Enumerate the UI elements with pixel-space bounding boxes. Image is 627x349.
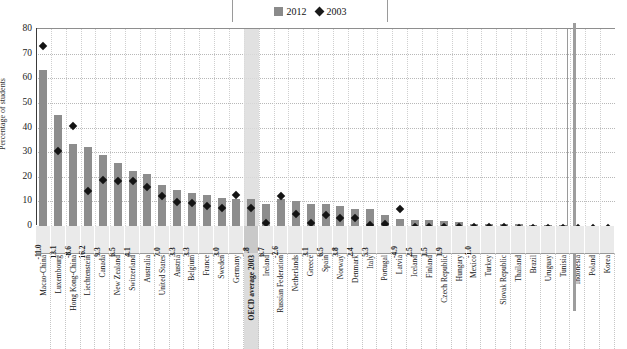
category-label-cell: Germany	[229, 253, 244, 349]
value-cell	[570, 226, 585, 253]
gridline	[36, 201, 615, 202]
y-tick-label: 40	[6, 122, 32, 132]
marker-macao-china	[39, 41, 47, 49]
vertical-gridline	[570, 29, 571, 226]
vertical-gridline	[66, 29, 67, 226]
category-label-cell: Liechtenstein	[81, 253, 96, 349]
vertical-gridline	[303, 29, 304, 226]
category-label: Sweden	[217, 255, 226, 279]
category-label: Switzerland	[127, 255, 136, 291]
value-cell: -1.0	[467, 226, 482, 253]
category-label-cell: Russian Federation	[274, 253, 289, 349]
category-label: Belgium	[187, 255, 196, 281]
marker-germany	[232, 190, 240, 198]
value-cell	[585, 226, 600, 253]
category-label: Austria	[172, 255, 181, 277]
category-label: Ireland	[261, 255, 270, 276]
category-label-cell: Sweden	[214, 253, 229, 349]
bar-russian-federation	[277, 199, 285, 226]
category-label-cell: Tunisia	[556, 253, 571, 349]
vertical-gridline	[481, 29, 482, 226]
value-cell: 4.1	[125, 226, 140, 253]
gridline	[36, 152, 615, 153]
category-label: France	[202, 255, 211, 275]
category-label-cell: Spain	[318, 253, 333, 349]
y-tick-label: 50	[6, 97, 32, 107]
category-label-cell: Brazil	[526, 253, 541, 349]
chart-figure: 2012 2003 Percentage of students 0102030…	[0, 0, 627, 349]
category-label-cell: Denmark	[348, 253, 363, 349]
bar-australia	[143, 174, 151, 226]
value-cell: 3.3	[184, 226, 199, 253]
vertical-gridline	[526, 29, 527, 226]
y-tick-label: 20	[6, 171, 32, 181]
category-label: Norway	[335, 255, 344, 279]
y-tick-label: 0	[6, 220, 32, 230]
bar-macao-china	[39, 70, 47, 226]
category-label: Thailand	[513, 255, 522, 282]
category-label: Hungary	[454, 255, 463, 281]
category-label-cell: OECD average 2003	[244, 253, 259, 349]
category-label: Turkey	[484, 255, 493, 276]
vertical-gridline	[288, 29, 289, 226]
group-separator-labels	[573, 253, 576, 311]
category-label: Uruguay	[543, 255, 552, 281]
category-label: Finland	[424, 255, 433, 278]
category-label: New Zealand	[113, 255, 122, 295]
category-label-cell: United States	[155, 253, 170, 349]
y-tick-label: 80	[6, 23, 32, 33]
plot-area	[36, 28, 615, 227]
category-label-cell: Portugal	[377, 253, 392, 349]
legend-item-2003: 2003	[316, 6, 347, 17]
bar-canada	[99, 155, 107, 226]
vertical-gridline	[348, 29, 349, 226]
group-separator-thin	[567, 29, 568, 226]
vertical-gridline	[452, 29, 453, 226]
vertical-gridline	[51, 29, 52, 226]
bar-germany	[232, 199, 240, 226]
category-label: Greece	[306, 255, 315, 276]
value-cell: 1.9	[437, 226, 452, 253]
vertical-gridline	[363, 29, 364, 226]
vertical-gridline	[422, 29, 423, 226]
category-label-cell: Poland	[585, 253, 600, 349]
category-label: Netherlands	[291, 255, 300, 291]
value-cell	[511, 226, 526, 253]
category-label: Liechtenstein	[83, 255, 92, 295]
category-label: Poland	[588, 255, 597, 276]
square-swatch-icon	[274, 7, 283, 16]
value-cell	[600, 226, 615, 253]
category-label-cell: Norway	[333, 253, 348, 349]
category-label-cell: Ireland	[259, 253, 274, 349]
bar-oecd-average-2003	[247, 199, 255, 226]
category-label-cell: Macao-China	[36, 253, 51, 349]
category-label-cell: New Zealand	[110, 253, 125, 349]
legend-label-2003: 2003	[327, 6, 347, 17]
category-label-cell: Hungary	[452, 253, 467, 349]
category-label-cell: Belgium	[184, 253, 199, 349]
legend-label-2012: 2012	[287, 6, 307, 17]
category-label-cell: Turkey	[481, 253, 496, 349]
diamond-marker-icon	[314, 6, 324, 16]
category-label: Tunisia	[558, 255, 567, 277]
bar-austria	[173, 190, 181, 226]
category-label-cell: Canada	[95, 253, 110, 349]
category-label: Korea	[603, 255, 612, 273]
value-label-strip: -11.013.1-8.616.29.36.54.17.03.33.33.02.…	[36, 226, 615, 254]
y-axis-line	[36, 28, 37, 225]
vertical-gridline	[95, 29, 96, 226]
category-label-cell: Thailand	[511, 253, 526, 349]
category-label-cell: Hong Kong-China	[66, 253, 81, 349]
group-separator	[573, 23, 576, 253]
category-label: Czech Republic	[439, 255, 448, 303]
value-cell	[556, 226, 571, 253]
category-label: Brazil	[528, 255, 537, 273]
vertical-gridline	[585, 29, 586, 226]
category-label-cell: Finland	[422, 253, 437, 349]
vertical-gridline	[214, 29, 215, 226]
vertical-gridline	[274, 29, 275, 226]
category-label-cell: Australia	[140, 253, 155, 349]
vertical-gridline	[125, 29, 126, 226]
value-cell	[541, 226, 556, 253]
vertical-gridline	[318, 29, 319, 226]
